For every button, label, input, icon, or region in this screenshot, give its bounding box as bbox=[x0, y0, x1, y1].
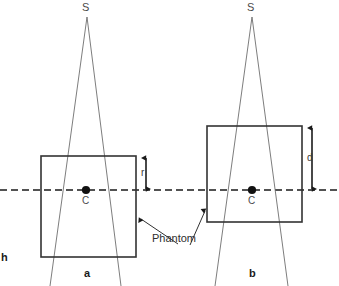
panel-a-dimension-label-r: r bbox=[141, 168, 144, 178]
panel-b-beam-edge-right bbox=[252, 17, 288, 286]
panel-a-phantom-rect bbox=[41, 156, 136, 257]
radiography-geometry-figure: S C r a S C d b Phantom h bbox=[0, 0, 339, 286]
panel-b-beam-cone bbox=[215, 17, 288, 286]
panel-b-source-label: S bbox=[247, 2, 254, 13]
panel-b-phantom-rect bbox=[207, 126, 302, 222]
figure-part-mark: h bbox=[1, 252, 8, 263]
panel-a-beam-edge-right bbox=[87, 17, 121, 286]
panel-b-beam-edge-left bbox=[215, 17, 252, 286]
phantom-annotation-label: Phantom bbox=[152, 233, 196, 244]
panel-b-label: b bbox=[249, 268, 256, 279]
panel-a-beam-edge-left bbox=[50, 17, 87, 286]
panel-a-center-point bbox=[82, 186, 90, 194]
panel-b-center-point bbox=[248, 186, 256, 194]
panel-a-beam-cone bbox=[50, 17, 121, 286]
panel-b-center-label: C bbox=[248, 196, 255, 206]
panel-a-group bbox=[41, 17, 178, 286]
panel-b-dimension-label-d: d bbox=[307, 153, 313, 163]
panel-a-source-label: S bbox=[82, 2, 89, 13]
panel-b-group bbox=[190, 17, 312, 286]
panel-a-center-label: C bbox=[82, 196, 89, 206]
panel-a-label: a bbox=[84, 268, 90, 279]
